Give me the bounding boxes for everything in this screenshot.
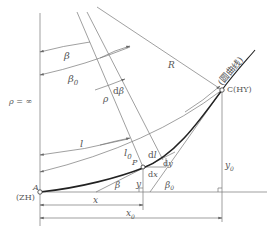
- zh-label: (ZH): [16, 193, 35, 202]
- l-arc-right: [100, 138, 130, 145]
- l-label: l: [80, 138, 83, 149]
- rho-label: ρ: [102, 94, 109, 104]
- y0-label: y0: [224, 160, 234, 172]
- dbeta-label: dβ: [113, 86, 124, 96]
- y-label: y: [135, 179, 142, 189]
- beta-label: β: [63, 50, 70, 61]
- radius-line-r: [97, 7, 222, 90]
- dl-label: dl: [148, 150, 157, 160]
- x-label: x: [93, 195, 98, 205]
- beta0-label: β0: [67, 73, 79, 87]
- l0-label: l0: [124, 147, 132, 161]
- r-label: R: [167, 60, 175, 70]
- transition-curve-diagram: ρ = ∞ β β0 ρ dβ R (圆曲线) C(HY) l l0 dl P …: [0, 0, 269, 233]
- point-p: [141, 165, 145, 169]
- right-angle-marker-c: [218, 188, 222, 192]
- beta0-arc: [40, 47, 130, 75]
- dx-label: dx: [148, 170, 158, 179]
- beta-angle-label: β: [114, 180, 120, 190]
- normal-line-p2: [87, 12, 163, 160]
- normal-line-p: [77, 12, 143, 167]
- a-label: A: [32, 183, 39, 192]
- dy-label: dy: [163, 159, 173, 168]
- beta0-angle-label: β0: [164, 180, 174, 191]
- p-label: P: [131, 158, 138, 167]
- point-c: [220, 88, 224, 92]
- c-hy-label: C(HY): [227, 85, 252, 94]
- transition-curve: [40, 90, 222, 192]
- circular-curve-label: (圆曲线): [215, 54, 245, 87]
- rho-infinity-label: ρ = ∞: [8, 97, 32, 106]
